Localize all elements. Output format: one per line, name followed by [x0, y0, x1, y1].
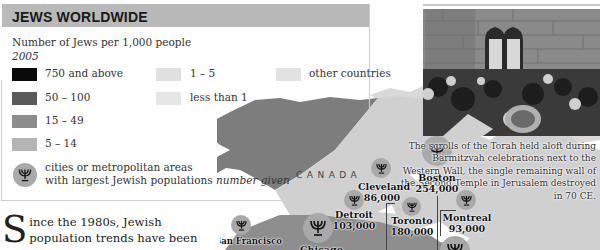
legend-city-symbol-line2: with largest Jewish populations number g…: [45, 174, 290, 186]
legend-title: JEWS WORLDWIDE: [12, 9, 148, 25]
legend-year: 2005: [12, 49, 191, 63]
legend-swatch-1-5: [156, 68, 181, 81]
legend-swatch-15-49: [12, 115, 37, 128]
city-label-chicago: Chicago: [300, 244, 336, 250]
city-marker-chicago[interactable]: [303, 213, 333, 243]
leader-line: [437, 196, 438, 250]
menorah-icon: [13, 163, 37, 187]
leader-line: [440, 210, 441, 236]
city-label-san-francisco: San Francisco: [215, 236, 271, 247]
article-text: ince the 1980s, Jewish population trends…: [2, 215, 197, 250]
city-label-montreal: Montreal 93,000: [442, 212, 492, 234]
legend-label-1-5: 1 – 5: [190, 67, 215, 79]
city-label-detroit: Detroit 103,000: [330, 209, 378, 231]
legend-label-5-14: 5 – 14: [45, 137, 77, 149]
western-wall-photo: [423, 9, 600, 136]
legend-label-less-than-1: less than 1: [190, 91, 248, 103]
legend-label-other-countries: other countries: [309, 67, 391, 79]
legend-label-15-49: 15 – 49: [45, 114, 84, 126]
city-marker-san-francisco[interactable]: [231, 215, 251, 235]
legend-swatch-50-100: [12, 92, 37, 105]
city-marker-cleveland[interactable]: [371, 158, 391, 178]
article-intro: S ince the 1980s, Jewish population tren…: [2, 214, 220, 250]
leader-line: [440, 210, 456, 211]
city-label-cleveland: Cleveland 86,000: [358, 181, 406, 203]
photo-rule: [423, 4, 600, 6]
city-label-toronto: Toronto 180,000: [390, 215, 434, 237]
legend-swatch-5-14: [12, 138, 37, 151]
legend-swatch-less-than-1: [156, 92, 181, 105]
legend-label-750-above: 750 and above: [45, 67, 123, 79]
legend-city-symbol-line1: cities or metropolitan areas: [45, 161, 193, 173]
legend-subtitle: Number of Jews per 1,000 people 2005: [12, 35, 191, 63]
legend-city-symbol-note: number given: [216, 174, 290, 186]
legend-swatch-750-above: [12, 68, 37, 81]
legend-header: JEWS WORLDWIDE: [2, 4, 369, 27]
legend-swatch-other-countries: [276, 68, 301, 81]
legend-label-50-100: 50 – 100: [45, 91, 90, 103]
drop-cap: S: [2, 215, 27, 245]
leader-line: [386, 203, 387, 250]
legend-subtitle-text: Number of Jews per 1,000 people: [12, 35, 191, 49]
leader-line: [386, 203, 395, 204]
country-label-canada: CANADA: [296, 170, 361, 180]
city-label-boston: Boston 254,000: [412, 172, 462, 194]
legend-city-symbol-text: with largest Jewish populations: [45, 174, 213, 186]
